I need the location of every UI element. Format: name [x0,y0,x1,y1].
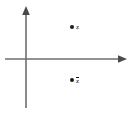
point-z-conjugate: z [70,78,79,86]
imaginary-axis-arrow-icon [22,6,30,15]
point-z-conjugate-label: z [76,77,79,85]
real-axis-arrow-icon [118,55,127,63]
axes-group [0,0,135,113]
point-z-conjugate-dot [70,78,74,82]
complex-plane-figure: z z [0,0,135,113]
point-z-dot [70,25,74,29]
point-z: z [70,25,79,32]
point-z-label: z [76,24,79,31]
